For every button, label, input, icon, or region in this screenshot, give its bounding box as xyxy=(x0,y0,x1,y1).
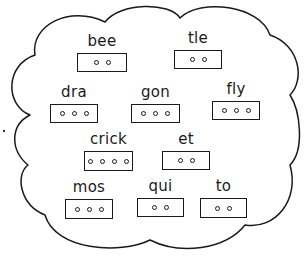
syllable-tile-bee: bee xyxy=(77,33,127,74)
syllable-label: et xyxy=(156,131,216,147)
dot-icon xyxy=(141,111,146,116)
dot-icon xyxy=(124,159,129,164)
dot-icon xyxy=(106,60,111,65)
dot-icon xyxy=(60,111,65,116)
syllable-label: qui xyxy=(131,178,191,194)
syllable-label: tle xyxy=(168,30,228,46)
dot-icon xyxy=(84,111,89,116)
syllable-label: dra xyxy=(44,84,104,100)
syllable-tile-to: to xyxy=(200,178,247,220)
dot-icon xyxy=(234,108,239,113)
stray-mark xyxy=(3,130,5,132)
dot-icon xyxy=(153,111,158,116)
syllable-box xyxy=(131,104,180,123)
dot-icon xyxy=(99,207,104,212)
dot-icon xyxy=(227,206,232,211)
syllable-tile-fly: fly xyxy=(212,81,260,122)
dot-icon xyxy=(75,207,80,212)
dot-icon xyxy=(246,108,251,113)
dot-icon xyxy=(87,207,92,212)
syllable-box xyxy=(200,198,247,218)
dot-icon xyxy=(152,205,157,210)
cloud-outline xyxy=(0,0,304,258)
syllable-box xyxy=(77,53,127,72)
syllable-box xyxy=(212,101,260,120)
syllable-tile-dra: dra xyxy=(50,84,98,125)
dot-icon xyxy=(72,111,77,116)
syllable-label: crick xyxy=(79,131,139,147)
syllable-label: mos xyxy=(59,179,119,195)
dot-icon xyxy=(94,60,99,65)
syllable-tile-qui: qui xyxy=(137,178,184,219)
dot-icon xyxy=(202,57,207,62)
syllable-box xyxy=(50,104,98,123)
syllable-label: to xyxy=(194,178,254,194)
syllable-box xyxy=(174,50,222,69)
syllable-box xyxy=(137,198,184,217)
dot-icon xyxy=(164,205,169,210)
dot-icon xyxy=(222,108,227,113)
dot-icon xyxy=(112,159,117,164)
syllable-box xyxy=(84,151,133,171)
syllable-label: bee xyxy=(72,33,132,49)
syllable-box xyxy=(65,199,113,219)
syllable-tile-tle: tle xyxy=(174,30,222,71)
dot-icon xyxy=(215,206,220,211)
syllable-tile-gon: gon xyxy=(131,84,180,125)
dot-icon xyxy=(178,158,183,163)
syllable-box xyxy=(162,151,210,170)
dot-icon xyxy=(100,159,105,164)
dot-icon xyxy=(190,158,195,163)
syllable-tile-crick: crick xyxy=(84,131,133,173)
dot-icon xyxy=(88,159,93,164)
dot-icon xyxy=(190,57,195,62)
dot-icon xyxy=(165,111,170,116)
syllable-tile-mos: mos xyxy=(65,179,113,221)
syllable-label: gon xyxy=(126,84,186,100)
syllable-label: fly xyxy=(206,81,266,97)
syllable-tile-et: et xyxy=(162,131,210,172)
